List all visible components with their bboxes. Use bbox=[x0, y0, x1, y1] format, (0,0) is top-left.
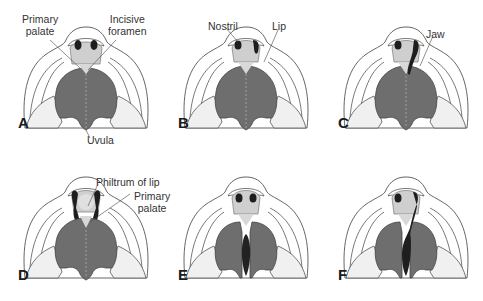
label-lip: Lip bbox=[272, 20, 286, 32]
panel-a: Primarypalate Incisiveforamen Uvula A bbox=[0, 0, 160, 150]
panel-b: Nostril Lip B bbox=[160, 0, 320, 150]
label-primary-palate: Primarypalate bbox=[22, 13, 58, 37]
panel-letter-d: D bbox=[18, 266, 29, 283]
panel-letter-a: A bbox=[18, 114, 29, 131]
panel-f: F bbox=[320, 150, 480, 300]
panel-letter-f: F bbox=[338, 266, 347, 283]
label-incisive-foramen: Incisiveforamen bbox=[108, 13, 147, 37]
label-jaw: Jaw bbox=[426, 28, 445, 40]
label-nostril: Nostril bbox=[208, 20, 238, 32]
panel-d: Philtrum of lip Primarypalate D bbox=[0, 150, 160, 300]
panel-e: E bbox=[160, 150, 320, 300]
label-philtrum-of-lip: Philtrum of lip bbox=[96, 176, 160, 188]
panel-c: Jaw C bbox=[320, 0, 480, 150]
panel-letter-e: E bbox=[178, 266, 188, 283]
label-uvula: Uvula bbox=[87, 134, 114, 146]
panel-letter-b: B bbox=[178, 114, 189, 131]
panel-letter-c: C bbox=[338, 114, 349, 131]
